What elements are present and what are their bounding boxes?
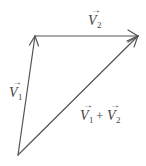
svg-text:1: 1 xyxy=(89,115,94,125)
label-sum: → V 1 + → V 2 xyxy=(80,99,121,125)
svg-text:1: 1 xyxy=(18,92,23,102)
svg-text:2: 2 xyxy=(97,20,102,30)
vector-sum-line xyxy=(18,36,138,155)
label-v1: → V 1 xyxy=(9,76,23,102)
label-v2: → V 2 xyxy=(88,4,102,30)
vector-diagram: → V 2 → V 1 → V 1 + → V 2 xyxy=(0,0,146,166)
svg-text:2: 2 xyxy=(116,115,121,125)
svg-text:+: + xyxy=(96,108,103,123)
